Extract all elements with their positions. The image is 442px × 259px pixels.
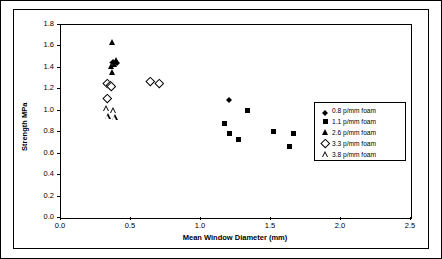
y-tick [57, 45, 60, 46]
legend-label: 2.6 p/mm foam [331, 129, 376, 136]
legend-marker [319, 151, 331, 157]
x-tick [270, 217, 271, 220]
y-tick [57, 67, 60, 68]
x-tick [60, 217, 61, 220]
data-point [236, 137, 241, 142]
marker-diamond-hollow-icon [154, 78, 163, 87]
plot-frame: Strength MPa Mean Window Diameter (mm) 0… [13, 9, 429, 249]
legend-item: 3.8 p/mm foam [315, 149, 405, 160]
marker-square-filled-icon [271, 129, 276, 134]
x-tick-label: 2.0 [325, 221, 355, 230]
marker-square-filled-icon [287, 144, 292, 149]
y-tick [57, 24, 60, 25]
data-point [109, 69, 115, 75]
y-tick [57, 217, 60, 218]
marker-triangle-hollow-icon [103, 105, 109, 111]
data-point [147, 78, 154, 85]
y-tick [57, 88, 60, 89]
marker-diamond-hollow-icon [103, 93, 112, 102]
chart-figure: Strength MPa Mean Window Diameter (mm) 0… [0, 0, 442, 259]
marker-diamond-hollow-icon [107, 82, 116, 91]
x-tick-label: 1.5 [255, 221, 285, 230]
x-tick-label: 0.0 [45, 221, 75, 230]
y-tick [57, 174, 60, 175]
legend-label: 0.8 p/mm foam [331, 107, 376, 114]
data-point [112, 114, 118, 120]
y-tick-label: 0.8 [28, 126, 54, 135]
marker-square-filled-icon [245, 108, 250, 113]
data-point [222, 121, 227, 126]
y-tick-label: 0.2 [28, 191, 54, 200]
x-tick-label: 2.5 [395, 221, 425, 230]
y-tick-label: 1.6 [28, 40, 54, 49]
legend-item: 3.3 p/mm foam [315, 138, 405, 149]
legend-label: 3.3 p/mm foam [331, 140, 376, 147]
data-point [110, 107, 116, 113]
data-point [245, 108, 250, 113]
data-point [108, 83, 115, 90]
data-point [291, 131, 296, 136]
marker-square-filled-icon [222, 121, 227, 126]
marker-square-filled-icon [291, 131, 296, 136]
data-point [226, 94, 232, 100]
y-tick [57, 110, 60, 111]
y-tick [57, 131, 60, 132]
data-point [271, 129, 276, 134]
y-tick [57, 196, 60, 197]
x-tick [130, 217, 131, 220]
data-point [111, 61, 117, 67]
legend-label: 3.8 p/mm foam [331, 151, 376, 158]
data-point [109, 39, 115, 45]
data-point [105, 113, 111, 119]
legend-item: 0.8 p/mm foam [315, 105, 405, 116]
marker-triangle-hollow-icon [112, 114, 118, 120]
legend-item: 2.6 p/mm foam [315, 127, 405, 138]
data-point [287, 144, 292, 149]
y-tick-label: 0.0 [28, 212, 54, 221]
marker-square-filled-icon [227, 131, 232, 136]
data-point [104, 95, 111, 102]
x-tick [340, 217, 341, 220]
marker-triangle-hollow-icon [322, 151, 328, 157]
legend: 0.8 p/mm foam1.1 p/mm foam2.6 p/mm foam3… [314, 102, 406, 161]
marker-triangle-filled-icon [109, 39, 115, 45]
marker-triangle-filled-icon [109, 69, 115, 75]
marker-square-filled-icon [323, 119, 328, 124]
data-point [227, 131, 232, 136]
y-tick-label: 1.8 [28, 19, 54, 28]
y-tick [57, 153, 60, 154]
marker-triangle-filled-icon [111, 61, 117, 67]
x-tick-label: 1.0 [185, 221, 215, 230]
x-tick-label: 0.5 [115, 221, 145, 230]
legend-marker [319, 119, 331, 124]
x-axis-label: Mean Window Diameter (mm) [60, 233, 410, 242]
y-tick-label: 1.2 [28, 83, 54, 92]
marker-triangle-hollow-icon [110, 107, 116, 113]
data-point [156, 80, 163, 87]
y-tick-label: 0.6 [28, 148, 54, 157]
x-tick [410, 217, 411, 220]
y-tick-label: 1.0 [28, 105, 54, 114]
marker-triangle-hollow-icon [105, 113, 111, 119]
y-tick-label: 0.4 [28, 169, 54, 178]
legend-marker [319, 129, 331, 135]
legend-item: 1.1 p/mm foam [315, 116, 405, 127]
legend-marker [319, 107, 331, 113]
x-tick [200, 217, 201, 220]
y-tick-label: 1.4 [28, 62, 54, 71]
marker-diamond-hollow-icon [146, 76, 155, 85]
marker-square-filled-icon [236, 137, 241, 142]
legend-marker [319, 140, 331, 147]
marker-diamond-hollow-icon [320, 138, 329, 147]
legend-label: 1.1 p/mm foam [331, 118, 376, 125]
marker-diamond-filled-icon [226, 94, 232, 100]
data-point [103, 105, 109, 111]
marker-triangle-filled-icon [322, 129, 328, 135]
marker-diamond-filled-icon [322, 107, 328, 113]
